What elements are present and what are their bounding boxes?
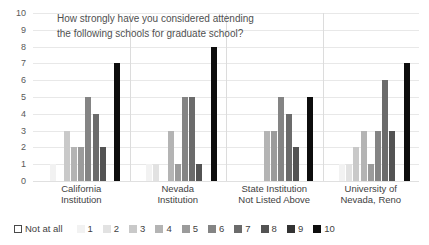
- legend-label-3: 3: [140, 224, 145, 234]
- legend-swatch-6: [208, 225, 216, 233]
- legend-swatch-5: [182, 225, 190, 233]
- bar-2-8: [196, 164, 202, 181]
- legend-label-10: 10: [324, 224, 335, 234]
- x-axis-label-3: State InstitutionNot Listed Above: [226, 183, 323, 205]
- legend-swatch-7: [234, 225, 242, 233]
- legend-label-1: 1: [88, 224, 93, 234]
- bar-4-8: [389, 131, 395, 181]
- legend-swatch-1: [77, 225, 85, 233]
- y-tick-label-1: 1: [21, 160, 26, 169]
- chart-title: How strongly have you considered attendi…: [57, 11, 357, 41]
- x-axis-label-2-line-2: Institution: [130, 194, 227, 205]
- x-axis-label-3-line-1: State Institution: [226, 183, 323, 194]
- legend-label-5: 5: [193, 224, 198, 234]
- chart-title-line-1: How strongly have you considered attendi…: [57, 11, 357, 26]
- legend-label-not-at-all: Not at all: [25, 224, 63, 234]
- bar-3-6: [278, 97, 284, 181]
- bar-4-7: [382, 80, 388, 181]
- y-tick-label-2: 2: [21, 143, 26, 152]
- legend-swatch-10: [313, 225, 321, 233]
- bar-4-4: [361, 131, 367, 181]
- y-tick-label-3: 3: [21, 126, 26, 135]
- bar-3-5: [271, 131, 277, 181]
- legend-swatch-2: [103, 225, 111, 233]
- y-tick-label-4: 4: [21, 109, 26, 118]
- legend-item-6[interactable]: 6: [208, 224, 224, 234]
- bar-4-2: [346, 164, 352, 181]
- legend-item-9[interactable]: 9: [287, 224, 303, 234]
- y-tick-label-0: 0: [21, 177, 26, 186]
- gridline-0: [33, 181, 419, 182]
- legend-label-7: 7: [245, 224, 250, 234]
- legend-item-2[interactable]: 2: [103, 224, 119, 234]
- legend-item-5[interactable]: 5: [182, 224, 198, 234]
- y-tick-label-6: 6: [21, 76, 26, 85]
- legend-item-10[interactable]: 10: [313, 224, 335, 234]
- y-tick-label-5: 5: [21, 93, 26, 102]
- bar-3-4: [264, 131, 270, 181]
- bar-2-2: [153, 164, 159, 181]
- legend-label-6: 6: [219, 224, 224, 234]
- bar-3-10: [307, 97, 313, 181]
- bar-2-4: [168, 131, 174, 181]
- x-axis-label-4-line-2: Nevada, Reno: [323, 194, 420, 205]
- bar-chart: 109876543210 How strongly have you consi…: [0, 0, 429, 245]
- legend-item-not-at-all[interactable]: Not at all: [14, 224, 63, 234]
- bar-2-6: [182, 97, 188, 181]
- bar-1-10: [114, 63, 120, 181]
- x-axis-label-4-line-1: University of: [323, 183, 420, 194]
- legend-label-2: 2: [114, 224, 119, 234]
- x-axis-label-4: University ofNevada, Reno: [323, 183, 420, 205]
- x-axis-label-3-line-2: Not Listed Above: [226, 194, 323, 205]
- bar-1-5: [78, 147, 84, 181]
- legend-item-1[interactable]: 1: [77, 224, 93, 234]
- legend-swatch-8: [261, 225, 269, 233]
- bar-1-7: [93, 114, 99, 181]
- y-tick-label-8: 8: [21, 42, 26, 51]
- bar-4-3: [353, 147, 359, 181]
- legend-swatch-3: [129, 225, 137, 233]
- y-axis: 109876543210: [0, 13, 31, 181]
- bar-1-3: [64, 131, 70, 181]
- x-axis-label-1-line-2: Institution: [33, 194, 130, 205]
- chart-title-line-2: the following schools for graduate schoo…: [57, 26, 357, 41]
- legend-item-3[interactable]: 3: [129, 224, 145, 234]
- legend-item-4[interactable]: 4: [155, 224, 171, 234]
- bar-2-5: [175, 164, 181, 181]
- bar-1-6: [85, 97, 91, 181]
- x-axis-labels: CaliforniaInstitutionNevadaInstitutionSt…: [33, 183, 419, 205]
- y-tick-label-7: 7: [21, 59, 26, 68]
- legend-item-8[interactable]: 8: [261, 224, 277, 234]
- legend-swatch-9: [287, 225, 295, 233]
- bar-1-1: [50, 164, 56, 181]
- legend-swatch-not-at-all: [14, 225, 22, 233]
- y-tick-label-10: 10: [16, 9, 26, 18]
- bar-4-6: [375, 131, 381, 181]
- bar-4-1: [339, 164, 345, 181]
- bar-3-7: [286, 114, 292, 181]
- legend-item-7[interactable]: 7: [234, 224, 250, 234]
- legend-label-4: 4: [166, 224, 171, 234]
- x-axis-label-1: CaliforniaInstitution: [33, 183, 130, 205]
- x-axis-label-2: NevadaInstitution: [130, 183, 227, 205]
- x-axis-label-2-line-1: Nevada: [130, 183, 227, 194]
- bar-2-10: [211, 47, 217, 181]
- y-tick-label-9: 9: [21, 25, 26, 34]
- bar-2-7: [189, 97, 195, 181]
- x-axis-label-1-line-1: California: [33, 183, 130, 194]
- bar-4-5: [368, 164, 374, 181]
- legend: Not at all12345678910: [14, 224, 418, 234]
- bar-3-8: [293, 147, 299, 181]
- bar-1-4: [71, 147, 77, 181]
- legend-label-9: 9: [298, 224, 303, 234]
- bar-4-10: [404, 63, 410, 181]
- legend-label-8: 8: [272, 224, 277, 234]
- bar-2-1: [146, 164, 152, 181]
- bar-1-8: [100, 147, 106, 181]
- legend-swatch-4: [155, 225, 163, 233]
